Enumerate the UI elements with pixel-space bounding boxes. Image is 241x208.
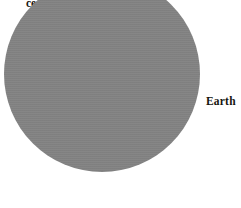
- earth-diagram: (…) ce- re Earth: [0, 0, 241, 208]
- earth-disc: [4, 0, 200, 172]
- earth-label: Earth: [206, 95, 236, 107]
- disc-texture: [4, 0, 200, 172]
